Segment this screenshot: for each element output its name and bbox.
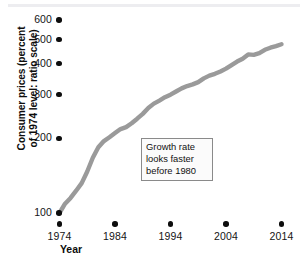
x-tick-dot-1974 [57, 221, 63, 227]
x-tick-label-1984: 1984 [95, 230, 135, 242]
x-tick-dot-1994 [168, 221, 174, 227]
annotation-line-3: before 1980 [146, 165, 208, 177]
x-tick-label-2014: 2014 [262, 230, 302, 242]
y-tick-dot-600 [56, 17, 62, 23]
y-tick-dot-500 [56, 37, 62, 43]
x-tick-label-2004: 2004 [206, 230, 246, 242]
y-tick-dot-400 [56, 61, 62, 67]
y-tick-dot-200 [56, 136, 62, 142]
consumer-price-line [60, 44, 282, 213]
x-tick-label-1994: 1994 [151, 230, 191, 242]
y-axis-label-line2: of 1974 level: ratio scale) [28, 29, 39, 147]
x-tick-dot-2004 [223, 221, 229, 227]
y-axis-label-line1: Consumer prices (percent [16, 27, 27, 151]
y-axis-label: Consumer prices (percent of 1974 level: … [16, 8, 41, 168]
y-tick-label-100: 100 [22, 206, 52, 218]
x-tick-dot-1984 [112, 221, 118, 227]
y-tick-dot-300 [56, 92, 62, 98]
x-axis-label: Year [51, 243, 91, 255]
chart-figure: 600 500 400 300 200 100 1974 1984 1994 2… [0, 0, 308, 265]
annotation-line-1: Growth rate [146, 141, 208, 153]
x-tick-label-1974: 1974 [40, 230, 80, 242]
y-tick-dot-100 [56, 210, 62, 216]
x-tick-dot-2014 [279, 221, 285, 227]
annotation-line-2: looks faster [146, 153, 208, 165]
growth-rate-annotation-box: Growth rate looks faster before 1980 [141, 138, 213, 181]
